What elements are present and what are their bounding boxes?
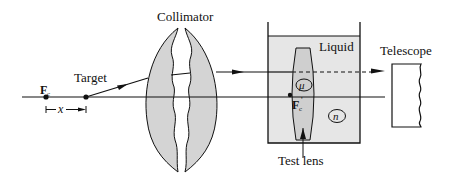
collimator-left-half	[146, 28, 178, 172]
test-lens-label: Test lens	[278, 153, 324, 168]
collimator-right-half	[185, 28, 217, 172]
collimator-lens	[146, 28, 217, 172]
ray-arrow-icon-2	[232, 70, 244, 75]
liquid-label: Liquid	[319, 39, 354, 54]
ray-arrow-icon-3	[371, 69, 385, 74]
telescope-label: Telescope	[380, 43, 432, 58]
fc-prime-subscript: c	[299, 105, 302, 113]
target-point	[83, 94, 88, 99]
telescope-body	[392, 64, 421, 127]
ray-arrow-icon-1	[117, 84, 128, 90]
focal-point-fc-prime	[288, 93, 292, 97]
target-label: Target	[74, 70, 107, 85]
mu-label: μ	[298, 79, 305, 91]
n-label: n	[333, 110, 339, 122]
optical-diagram: Collimator Target Liquid Telescope Test …	[0, 0, 456, 181]
ray-in-collimator	[171, 73, 190, 75]
collimator-label: Collimator	[157, 9, 214, 24]
x-label: x	[57, 102, 64, 116]
distance-marker	[46, 106, 86, 113]
fc-subscript: c	[47, 90, 50, 98]
